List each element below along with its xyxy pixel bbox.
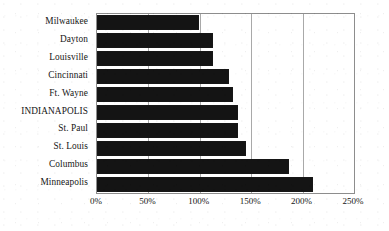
category-label: Cincinnati: [48, 67, 88, 85]
category-axis-labels: MilwaukeeDaytonLouisvilleCincinnatiFt. W…: [0, 13, 92, 192]
category-label: Ft. Wayne: [49, 85, 88, 103]
category-label: Minneapolis: [40, 174, 88, 192]
value-axis-labels: 0%50%100%150%200%250%: [96, 196, 353, 212]
value-tick-label: 250%: [343, 196, 364, 206]
value-tick-label: 0%: [90, 196, 102, 206]
bar: [97, 15, 199, 30]
category-label: Columbus: [49, 156, 88, 174]
category-label: St. Louis: [54, 138, 88, 156]
category-label: Dayton: [60, 31, 88, 49]
category-label: INDIANAPOLIS: [21, 103, 88, 121]
bar: [97, 123, 238, 138]
bar: [97, 105, 238, 120]
bar: [97, 51, 213, 66]
bar-series: [97, 14, 354, 193]
category-label: Louisville: [49, 49, 88, 67]
bar-chart: MilwaukeeDaytonLouisvilleCincinnatiFt. W…: [0, 0, 389, 231]
bar: [97, 159, 289, 174]
plot-area: [96, 13, 355, 194]
category-label: St. Paul: [58, 120, 88, 138]
bar: [97, 87, 233, 102]
value-tick-label: 200%: [291, 196, 312, 206]
bar: [97, 33, 213, 48]
bar: [97, 177, 313, 192]
bar: [97, 141, 246, 156]
bar: [97, 69, 229, 84]
value-tick-label: 150%: [240, 196, 261, 206]
value-tick-label: 100%: [188, 196, 209, 206]
value-tick-label: 50%: [139, 196, 156, 206]
category-label: Milwaukee: [45, 13, 88, 31]
